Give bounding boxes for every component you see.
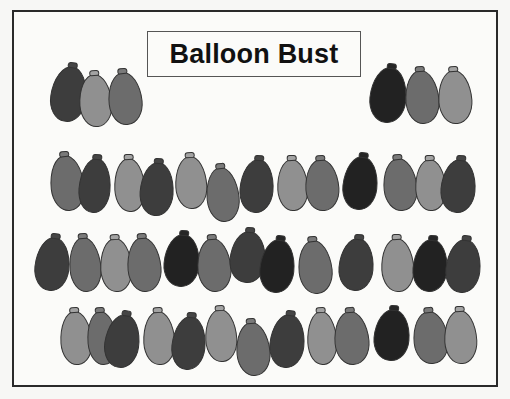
balloon-knot-icon xyxy=(59,151,70,158)
balloon-body xyxy=(101,312,143,370)
balloon-knot-icon xyxy=(69,307,79,314)
balloon-knot-icon xyxy=(315,155,325,162)
balloon-body xyxy=(439,158,479,215)
game-title: Balloon Bust xyxy=(170,39,339,70)
balloon-knot-icon xyxy=(245,227,255,234)
balloon-knot-icon xyxy=(94,307,104,314)
balloon-knot-icon xyxy=(92,154,102,161)
balloon-dark[interactable] xyxy=(443,233,484,294)
balloon-light[interactable] xyxy=(443,305,479,365)
balloon-knot-icon xyxy=(353,234,363,241)
balloon-medium[interactable] xyxy=(303,154,341,212)
balloon-knot-icon xyxy=(109,234,119,241)
balloon-knot-icon xyxy=(206,234,216,241)
balloon-knot-icon xyxy=(67,62,78,69)
balloon-body xyxy=(106,70,145,126)
balloon-body xyxy=(443,237,483,294)
balloon-knot-icon xyxy=(414,66,424,73)
balloon-body xyxy=(332,310,372,367)
balloon-knot-icon xyxy=(214,163,225,170)
balloon-body xyxy=(174,155,209,210)
balloon-knot-icon xyxy=(423,307,434,314)
balloon-body xyxy=(436,69,474,125)
balloon-body xyxy=(138,161,176,217)
balloon-dark[interactable] xyxy=(169,310,209,371)
balloon-knot-icon xyxy=(185,152,195,159)
balloon-body xyxy=(303,158,341,212)
balloon-knot-icon xyxy=(117,68,128,75)
balloon-dark[interactable] xyxy=(267,308,308,369)
balloon-medium[interactable] xyxy=(295,234,335,295)
balloon-body xyxy=(403,69,442,126)
balloon-knot-icon xyxy=(215,305,225,312)
balloon-black[interactable] xyxy=(257,233,298,294)
balloon-body xyxy=(340,154,380,211)
balloon-knot-icon xyxy=(286,155,296,162)
balloon-knot-icon xyxy=(344,307,354,314)
balloon-dark[interactable] xyxy=(439,154,479,215)
balloon-medium[interactable] xyxy=(195,233,234,294)
balloon-body xyxy=(267,312,307,369)
balloon-knot-icon xyxy=(391,234,401,241)
balloon-body xyxy=(337,237,376,293)
balloon-knot-icon xyxy=(121,310,132,317)
balloon-dark[interactable] xyxy=(337,233,377,293)
balloon-knot-icon xyxy=(123,154,133,161)
balloon-knot-icon xyxy=(245,318,255,325)
balloon-knot-icon xyxy=(285,310,296,317)
balloon-knot-icon xyxy=(152,307,162,314)
balloon-medium[interactable] xyxy=(203,161,242,223)
balloon-medium[interactable] xyxy=(332,306,372,367)
balloon-light[interactable] xyxy=(204,304,239,363)
balloon-dark[interactable] xyxy=(138,157,176,217)
balloon-black[interactable] xyxy=(372,304,413,363)
title-box: Balloon Bust xyxy=(147,31,361,77)
balloon-knot-icon xyxy=(179,230,189,237)
balloon-dark[interactable] xyxy=(76,153,113,215)
balloon-light[interactable] xyxy=(174,151,209,210)
balloon-knot-icon xyxy=(254,155,264,162)
balloon-knot-icon xyxy=(424,155,434,162)
balloon-medium[interactable] xyxy=(124,232,163,294)
balloon-body xyxy=(443,309,479,365)
balloon-knot-icon xyxy=(275,235,286,242)
balloon-black[interactable] xyxy=(340,150,381,211)
balloon-knot-icon xyxy=(307,236,318,243)
balloon-knot-icon xyxy=(154,158,164,165)
balloon-knot-icon xyxy=(389,305,399,312)
balloon-knot-icon xyxy=(186,312,197,319)
balloon-dark[interactable] xyxy=(238,154,277,215)
balloon-knot-icon xyxy=(456,155,466,162)
balloon-knot-icon xyxy=(454,306,464,313)
balloon-medium[interactable] xyxy=(234,317,273,378)
balloon-body xyxy=(76,157,113,215)
balloon-body xyxy=(125,236,164,294)
balloon-body xyxy=(204,308,239,363)
balloon-body xyxy=(203,165,242,223)
balloon-knot-icon xyxy=(448,66,458,73)
balloon-body xyxy=(257,237,297,294)
balloon-knot-icon xyxy=(427,235,437,242)
balloon-knot-icon xyxy=(461,235,472,242)
balloon-body xyxy=(195,237,234,294)
balloon-body xyxy=(372,308,412,363)
balloon-body xyxy=(234,321,273,378)
balloon-knot-icon xyxy=(358,152,369,159)
balloon-knot-icon xyxy=(89,70,99,77)
balloon-body xyxy=(238,158,277,215)
balloon-body xyxy=(295,238,334,295)
balloon-knot-icon xyxy=(136,233,146,240)
balloon-knot-icon xyxy=(50,233,61,240)
balloon-knot-icon xyxy=(392,154,403,161)
balloon-medium[interactable] xyxy=(105,66,145,126)
balloon-knot-icon xyxy=(386,63,397,70)
balloon-knot-icon xyxy=(77,233,87,240)
balloon-light[interactable] xyxy=(436,65,474,125)
balloon-knot-icon xyxy=(315,307,325,314)
balloon-body xyxy=(169,314,208,371)
